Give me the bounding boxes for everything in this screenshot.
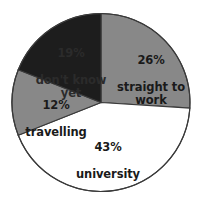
- pie-slice-straight-to-work[interactable]: [101, 14, 190, 109]
- pie-chart-canvas: [0, 0, 198, 206]
- pie-chart: 26% straight to work 43% university 12% …: [0, 0, 198, 206]
- pie-slices: [12, 14, 190, 192]
